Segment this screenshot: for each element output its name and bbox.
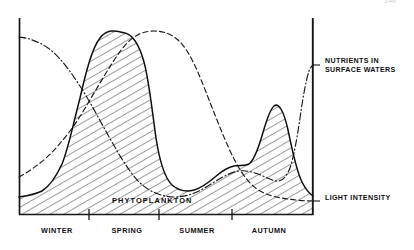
season-label-summer: SUMMER (166, 226, 228, 235)
season-label-winter: WINTER (26, 226, 88, 235)
phytoplankton-seasonal-cycle-figure: 249 (0, 0, 414, 250)
season-label-autumn: AUTUMN (238, 226, 300, 235)
light-intensity-curve-label: LIGHT INTENSITY (325, 194, 391, 203)
season-label-spring: SPRING (96, 226, 158, 235)
chart-svg (0, 0, 414, 250)
phytoplankton-curve-label: PHYTOPLANKTON (112, 196, 193, 205)
nutrients-curve-label-line1: NUTRIENTS IN (325, 57, 396, 66)
nutrients-curve-label-line2: SURFACE WATERS (325, 66, 396, 75)
nutrients-curve-label: NUTRIENTS IN SURFACE WATERS (325, 57, 396, 75)
